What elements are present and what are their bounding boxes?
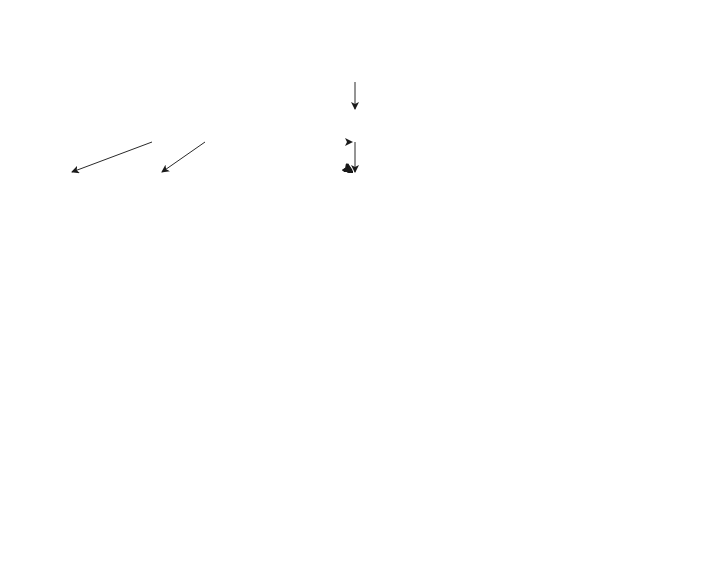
connector-arrows (0, 0, 709, 574)
